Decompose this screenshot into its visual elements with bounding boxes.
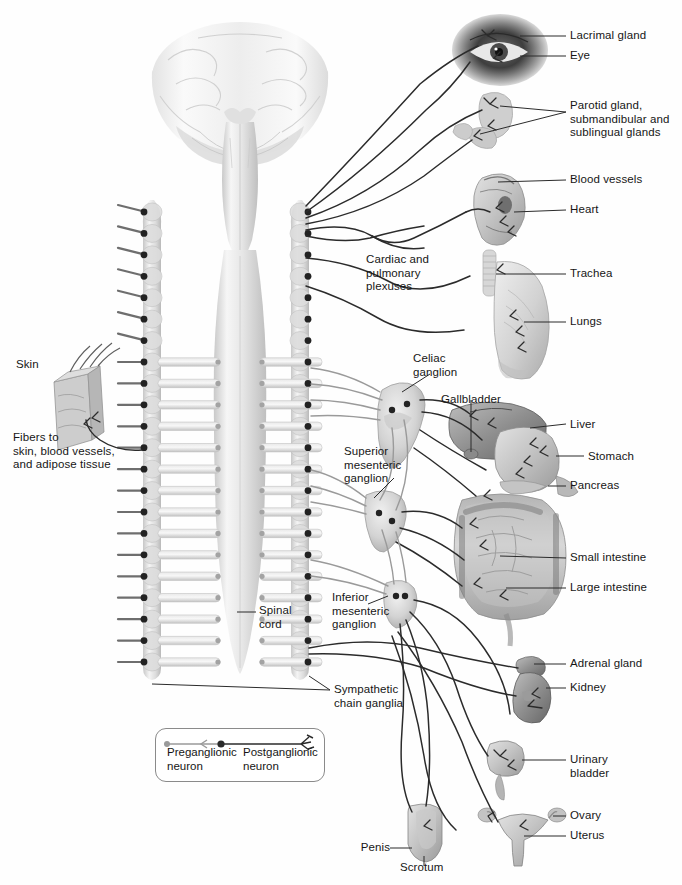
chain-ganglion-soma — [141, 594, 148, 601]
ramus-left — [158, 658, 220, 666]
chain-ganglion-soma — [141, 316, 148, 323]
ramus-left — [158, 508, 220, 516]
chain-ganglion-soma — [141, 209, 148, 216]
chain-ganglion-soma — [141, 573, 148, 580]
legend-label-postganglionic: Postganglionic neuron — [243, 746, 318, 773]
label-spinal-cord: Spinal cord — [259, 604, 292, 631]
label-eye: Eye — [570, 49, 590, 63]
label-ovary: Ovary — [570, 809, 601, 823]
chain-ganglion-soma — [141, 509, 148, 516]
ramus-left — [158, 594, 220, 602]
label-lungs: Lungs — [570, 315, 602, 329]
chain-ganglion-soma — [141, 359, 148, 366]
label-sympathetic-chain-ganglia: Sympathetic chain ganglia — [334, 683, 403, 710]
penis-scrotum-illustration — [408, 804, 442, 862]
ramus-right — [260, 486, 322, 494]
label-fibers-to-skin: Fibers to skin, blood vessels, and adipo… — [13, 431, 115, 472]
label-pancreas: Pancreas — [570, 479, 619, 493]
ramus-right — [260, 465, 322, 473]
chain-ganglion-soma — [141, 273, 148, 280]
label-superior-mesenteric-ganglion: Superior mesenteric ganglion — [344, 445, 401, 486]
ramus-left — [158, 358, 220, 366]
label-adrenal-gland: Adrenal gland — [570, 657, 642, 671]
ramus-right — [260, 444, 322, 452]
ramus-left — [158, 422, 220, 430]
figure-sympathetic-nervous-system: Lacrimal gland Eye Parotid gland, subman… — [0, 0, 682, 885]
ramus-right — [260, 551, 322, 559]
label-skin: Skin — [16, 358, 39, 372]
uterus-illustration — [478, 808, 566, 866]
chain-ganglion-soma — [141, 659, 148, 666]
chain-ganglion-soma — [141, 337, 148, 344]
label-heart: Heart — [570, 203, 599, 217]
legend-label-preganglionic: Preganglionic neuron — [167, 746, 237, 773]
chain-ganglion-soma — [141, 230, 148, 237]
ramus-right — [260, 529, 322, 537]
ramus-right — [260, 401, 322, 409]
ramus-left — [158, 551, 220, 559]
label-lacrimal-gland: Lacrimal gland — [570, 29, 646, 43]
chain-ganglion-soma — [141, 551, 148, 558]
lungs-illustration — [494, 262, 549, 380]
ramus-right — [260, 508, 322, 516]
eye-illustration — [452, 14, 548, 86]
ramus-left — [158, 401, 220, 409]
ramus-left — [158, 465, 220, 473]
chain-ganglion-soma — [141, 530, 148, 537]
chain-ganglion-soma — [141, 466, 148, 473]
ramus-left — [158, 529, 220, 537]
ramus-left — [158, 379, 220, 387]
chain-ganglion-soma — [141, 251, 148, 258]
label-kidney: Kidney — [570, 681, 606, 695]
chain-ganglion-soma — [141, 423, 148, 430]
chain-ganglion-soma — [141, 637, 148, 644]
ramus-left — [158, 636, 220, 644]
label-celiac-ganglion: Celiac ganglion — [413, 352, 457, 379]
label-small-intestine: Small intestine — [570, 551, 646, 565]
trachea-illustration — [483, 250, 496, 296]
label-trachea: Trachea — [570, 267, 612, 281]
ramus-right — [260, 594, 322, 602]
kidney-illustration — [513, 656, 551, 722]
intestines-illustration — [454, 494, 566, 646]
chain-ganglion-soma — [141, 401, 148, 408]
label-large-intestine: Large intestine — [570, 581, 647, 595]
ramus-right — [260, 358, 322, 366]
chain-ganglion-soma — [141, 380, 148, 387]
label-scrotum: Scrotum — [400, 861, 444, 875]
ramus-left — [158, 444, 220, 452]
label-blood-vessels: Blood vessels — [570, 173, 642, 187]
ramus-left — [158, 572, 220, 580]
ramus-right — [260, 658, 322, 666]
ramus-left — [158, 615, 220, 623]
label-urinary-bladder: Urinary bladder — [570, 753, 609, 780]
label-salivary-glands: Parotid gland, submandibular and subling… — [570, 99, 670, 140]
ramus-right — [260, 422, 322, 430]
ramus-right — [260, 636, 322, 644]
label-cardiac-pulmonary-plexuses: Cardiac and pulmonary plexuses — [366, 253, 429, 294]
label-uterus: Uterus — [570, 829, 604, 843]
ramus-left — [158, 486, 220, 494]
label-gallbladder: Gallbladder — [441, 393, 501, 407]
label-inferior-mesenteric-ganglion: Inferior mesenteric ganglion — [332, 591, 389, 632]
label-stomach: Stomach — [588, 450, 634, 464]
chain-ganglion-soma — [141, 294, 148, 301]
chain-ganglion-soma — [141, 487, 148, 494]
label-penis: Penis — [340, 841, 390, 855]
label-liver: Liver — [570, 418, 595, 432]
chain-ganglion-soma — [141, 616, 148, 623]
